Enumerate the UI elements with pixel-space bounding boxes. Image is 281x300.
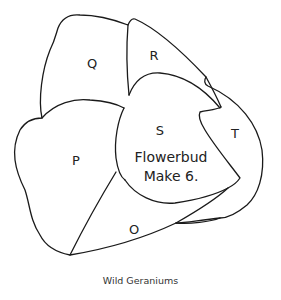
- piece-label-t: T: [231, 127, 239, 140]
- piece-label-p: P: [72, 154, 80, 167]
- piece-label-o: O: [129, 223, 139, 236]
- caption: Wild Geraniums: [103, 275, 178, 286]
- piece-label-r: R: [149, 49, 158, 62]
- piece-label-s: S: [156, 124, 164, 137]
- outer-outline: [15, 15, 263, 255]
- center-title: Flowerbud: [135, 149, 208, 166]
- piece-label-q: Q: [87, 57, 97, 70]
- center-instruction: Make 6.: [144, 168, 199, 185]
